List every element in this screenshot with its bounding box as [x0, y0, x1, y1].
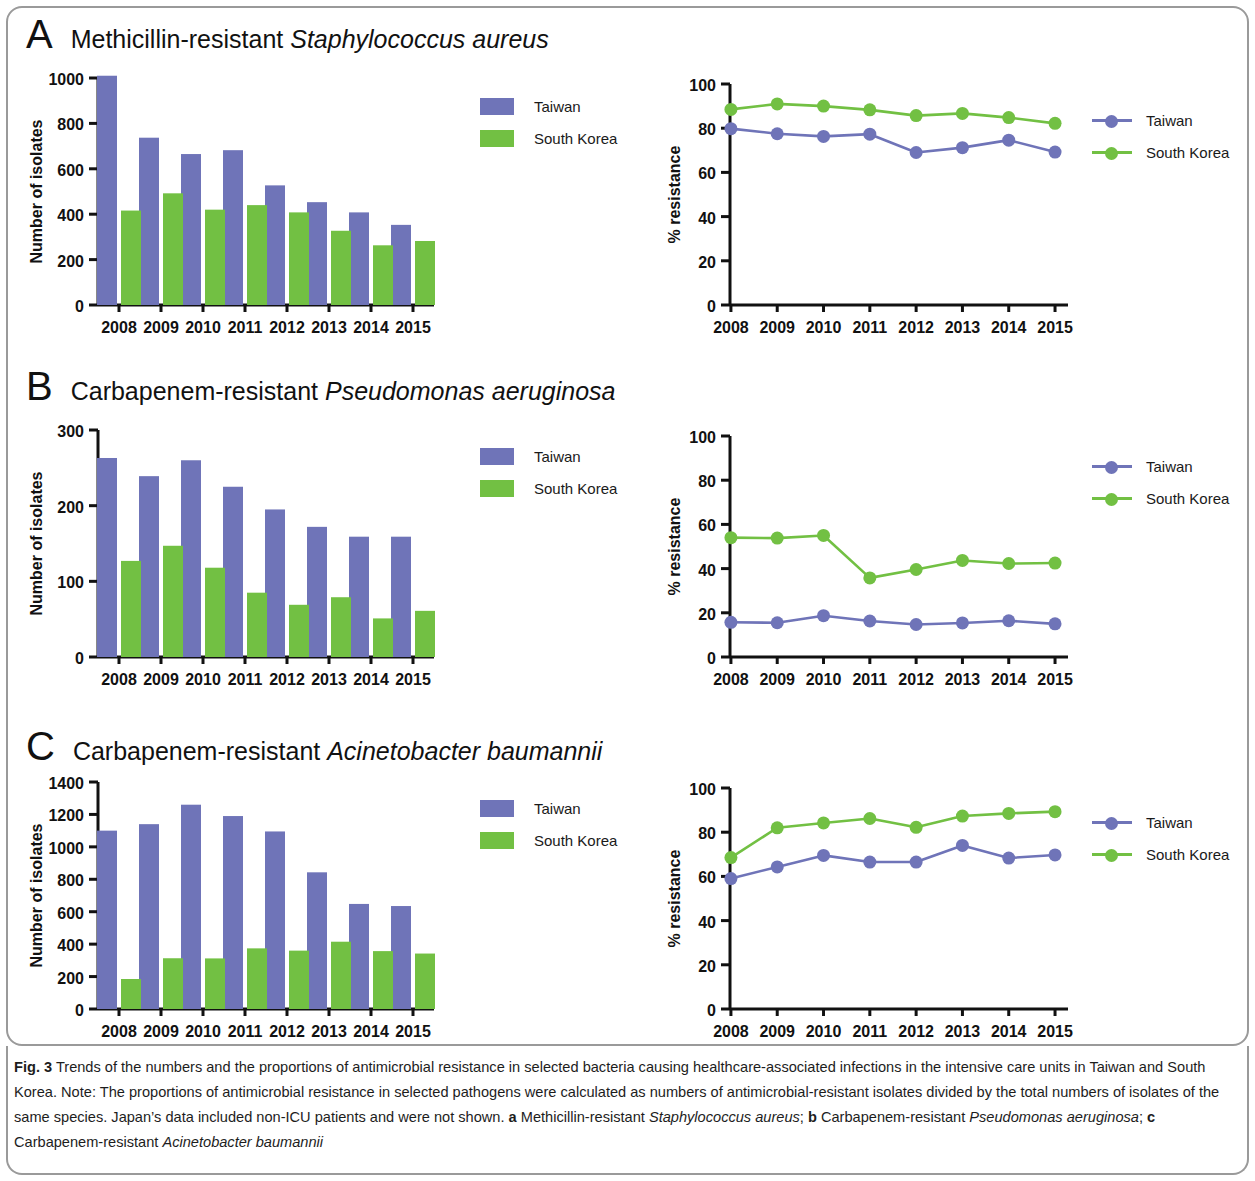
- bar-taiwan-2013: [307, 202, 327, 305]
- point-taiwan-2011: [863, 614, 876, 627]
- svg-text:2009: 2009: [759, 1023, 795, 1040]
- point-south-korea-2015: [1049, 805, 1062, 818]
- svg-text:60: 60: [698, 517, 716, 534]
- bar-taiwan-2012: [265, 185, 285, 305]
- svg-text:200: 200: [57, 970, 84, 987]
- svg-text:% resistance: % resistance: [666, 849, 683, 947]
- svg-text:40: 40: [698, 562, 716, 579]
- legend-a-line: Taiwan South Korea: [1092, 104, 1229, 168]
- legend-item-south-korea: South Korea: [1092, 838, 1229, 870]
- chart-b-number-of-isolates: 0100200300200820092010201120122013201420…: [26, 420, 446, 705]
- bar-south-korea-2011: [247, 948, 267, 1009]
- point-south-korea-2013: [956, 107, 969, 120]
- c-resistance-svg: 0204060801002008200920102011201220132014…: [666, 772, 1086, 1057]
- bar-south-korea-2015: [415, 241, 435, 305]
- point-south-korea-2010: [817, 816, 830, 829]
- point-south-korea-2012: [910, 563, 923, 576]
- svg-text:0: 0: [75, 1002, 84, 1019]
- legend-label-south-korea: South Korea: [1146, 490, 1229, 507]
- svg-text:2011: 2011: [228, 671, 263, 688]
- svg-text:2008: 2008: [713, 671, 749, 688]
- legend-item-taiwan: Taiwan: [480, 90, 617, 122]
- legend-c-bar: Taiwan South Korea: [480, 792, 617, 856]
- point-taiwan-2009: [771, 127, 784, 140]
- bar-taiwan-2011: [223, 816, 243, 1009]
- svg-text:Number of isolates: Number of isolates: [28, 119, 45, 263]
- point-south-korea-2012: [910, 821, 923, 834]
- panel-b-title-species: Pseudomonas aeruginosa: [325, 377, 615, 405]
- svg-text:2012: 2012: [269, 671, 305, 688]
- svg-text:1000: 1000: [48, 840, 84, 857]
- legend-item-south-korea: South Korea: [480, 472, 617, 504]
- point-taiwan-2014: [1002, 614, 1015, 627]
- point-south-korea-2011: [863, 571, 876, 584]
- legend-label-south-korea: South Korea: [534, 832, 617, 849]
- legend-item-taiwan: Taiwan: [480, 440, 617, 472]
- legend-c-line: Taiwan South Korea: [1092, 806, 1229, 870]
- bar-south-korea-2011: [247, 593, 267, 657]
- caption-b-text: Carbapenem-resistant: [817, 1109, 970, 1125]
- point-taiwan-2009: [771, 616, 784, 629]
- taiwan-line-marker-icon: [1092, 458, 1132, 474]
- svg-text:40: 40: [698, 210, 716, 227]
- caption-a-species: Staphylococcus aureus: [649, 1109, 800, 1125]
- bar-taiwan-2009: [139, 138, 159, 305]
- south-korea-line-marker-icon: [1092, 490, 1132, 506]
- svg-text:2013: 2013: [311, 319, 347, 336]
- bar-south-korea-2012: [289, 212, 309, 305]
- svg-text:2009: 2009: [759, 319, 795, 336]
- bar-south-korea-2009: [163, 958, 183, 1009]
- svg-text:2008: 2008: [101, 671, 137, 688]
- legend-label-south-korea: South Korea: [534, 130, 617, 147]
- point-taiwan-2013: [956, 616, 969, 629]
- svg-text:2015: 2015: [395, 319, 431, 336]
- panel-b: B Carbapenem-resistant Pseudomonas aerug…: [0, 360, 1243, 720]
- svg-text:2009: 2009: [143, 1023, 179, 1040]
- legend-label-taiwan: Taiwan: [534, 448, 581, 465]
- c-counts-svg: 0200400600800100012001400200820092010201…: [26, 772, 446, 1057]
- svg-text:2011: 2011: [228, 319, 263, 336]
- bar-taiwan-2010: [181, 460, 201, 657]
- bar-south-korea-2010: [205, 958, 225, 1009]
- svg-text:200: 200: [57, 499, 84, 516]
- chart-b-percent-resistance: 0204060801002008200920102011201220132014…: [666, 420, 1086, 705]
- figure-root: A Methicillin-resistant Staphylococcus a…: [0, 0, 1255, 1181]
- point-south-korea-2014: [1002, 807, 1015, 820]
- a-resistance-svg: 0204060801002008200920102011201220132014…: [666, 68, 1086, 353]
- point-south-korea-2009: [771, 532, 784, 545]
- point-taiwan-2010: [817, 849, 830, 862]
- chart-c-percent-resistance: 0204060801002008200920102011201220132014…: [666, 772, 1086, 1057]
- bar-taiwan-2013: [307, 527, 327, 657]
- bar-taiwan-2011: [223, 150, 243, 305]
- svg-text:200: 200: [57, 253, 84, 270]
- svg-text:800: 800: [57, 872, 84, 889]
- legend-item-south-korea: South Korea: [1092, 136, 1229, 168]
- bar-taiwan-2009: [139, 476, 159, 657]
- svg-text:2009: 2009: [759, 671, 795, 688]
- svg-text:2012: 2012: [898, 1023, 934, 1040]
- point-taiwan-2014: [1002, 134, 1015, 147]
- bar-south-korea-2010: [205, 568, 225, 657]
- svg-text:% resistance: % resistance: [666, 497, 683, 595]
- legend-label-taiwan: Taiwan: [1146, 458, 1193, 475]
- chart-a-number-of-isolates: 0200400600800100020082009201020112012201…: [26, 68, 446, 353]
- caption-c-label: c: [1147, 1109, 1155, 1125]
- panel-c-title-species: Acinetobacter baumannii: [327, 737, 602, 765]
- legend-item-taiwan: Taiwan: [1092, 450, 1229, 482]
- point-taiwan-2013: [956, 839, 969, 852]
- b-resistance-svg: 0204060801002008200920102011201220132014…: [666, 420, 1086, 705]
- point-taiwan-2013: [956, 141, 969, 154]
- panel-c: C Carbapenem-resistant Acinetobacter bau…: [0, 720, 1243, 1050]
- taiwan-line-marker-icon: [1092, 112, 1132, 128]
- taiwan-swatch-icon: [480, 98, 514, 115]
- svg-text:400: 400: [57, 207, 84, 224]
- point-taiwan-2015: [1049, 146, 1062, 159]
- panel-c-letter: C: [26, 726, 55, 766]
- caption-b-species: Pseudomonas aeruginosa: [969, 1109, 1139, 1125]
- point-taiwan-2009: [771, 860, 784, 873]
- svg-text:2012: 2012: [898, 319, 934, 336]
- point-taiwan-2008: [724, 122, 737, 135]
- legend-item-taiwan: Taiwan: [480, 792, 617, 824]
- svg-text:2013: 2013: [945, 1023, 981, 1040]
- point-taiwan-2011: [863, 856, 876, 869]
